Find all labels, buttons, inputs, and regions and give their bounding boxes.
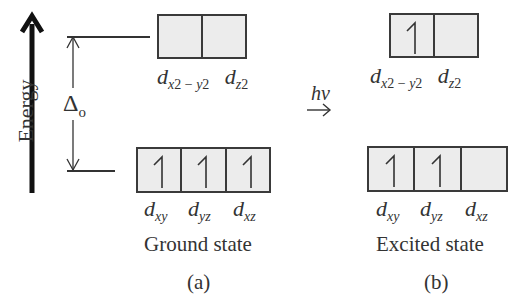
- ground-orbital-dxz: [227, 149, 269, 191]
- ground-eg-orbital-box: [157, 14, 247, 59]
- delta-symbol: Δ: [63, 90, 78, 116]
- excited-t2g-label-dxz: dxz: [465, 196, 488, 225]
- spin-up-electron-icon: [196, 155, 210, 189]
- spin-up-electron-icon: [384, 154, 398, 188]
- excited-orbital-dxy: [369, 148, 415, 190]
- excited-orbital-dx2y2: [391, 15, 435, 56]
- excited-orbital-dyz: [415, 148, 461, 190]
- panel-label-b: (b): [424, 270, 449, 295]
- excited-t2g-orbital-box: [367, 146, 508, 192]
- delta-subscript: o: [78, 104, 86, 120]
- excited-state-caption: Excited state: [376, 232, 484, 257]
- ground-orbital-dx2y2: [159, 16, 203, 57]
- ground-state-caption: Ground state: [144, 232, 252, 257]
- panel-label-a: (a): [187, 270, 210, 295]
- ground-orbital-dz2: [203, 16, 245, 57]
- excited-t2g-label-dyz: dyz: [420, 196, 443, 225]
- ground-t2g-label-dxy: dxy: [144, 196, 167, 225]
- ground-orbital-dxy: [138, 149, 182, 191]
- ground-t2g-label-dyz: dyz: [188, 196, 211, 225]
- spin-up-electron-icon: [430, 154, 444, 188]
- splitting-label: Δo: [63, 90, 86, 121]
- excited-eg-orbital-box: [389, 13, 479, 58]
- right-arrow-icon: [306, 103, 332, 117]
- ground-orbital-dyz: [182, 149, 226, 191]
- excited-eg-labels: dx2 − y2 dz2: [370, 63, 461, 92]
- spin-up-electron-icon: [152, 155, 166, 189]
- excited-orbital-dxz: [462, 148, 506, 190]
- ground-eg-labels: dx2 − y2 dz2: [157, 64, 248, 93]
- spin-up-electron-icon: [241, 155, 255, 189]
- excited-orbital-dz2: [435, 15, 477, 56]
- spin-up-electron-icon: [405, 21, 419, 55]
- energy-axis-label: Energy: [13, 71, 39, 151]
- ground-t2g-label-dxz: dxz: [233, 196, 256, 225]
- ground-t2g-orbital-box: [136, 147, 271, 193]
- excited-t2g-label-dxy: dxy: [376, 196, 399, 225]
- transition-label: hν: [311, 82, 330, 105]
